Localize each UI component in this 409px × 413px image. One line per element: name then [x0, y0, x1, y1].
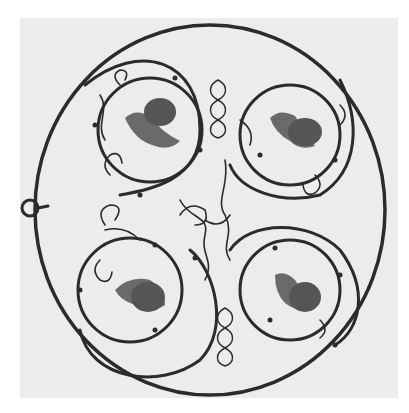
outer-ring	[35, 25, 385, 395]
wrought-iron-grille	[0, 0, 409, 413]
grape-cluster-top-right	[270, 112, 322, 147]
grape-cluster-top-left	[125, 98, 180, 148]
figure-eight-knot-top	[211, 80, 226, 138]
grape-cluster-bottom-right	[275, 273, 321, 312]
grape-cluster-bottom-left	[115, 279, 165, 312]
figure-eight-knot-bottom	[218, 308, 233, 366]
